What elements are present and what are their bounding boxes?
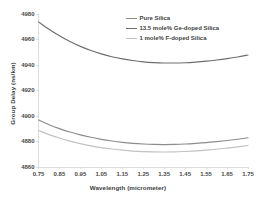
y-tick-label: 4920 [7,87,35,93]
legend-label: 13.5 mole% Ge-doped Silica [140,24,220,32]
y-tick-label: 4980 [7,11,35,17]
y-tick-label: 4880 [7,138,35,144]
y-tick-label: 4960 [7,36,35,42]
legend-label: Pure Silica [140,14,171,22]
legend-item[interactable]: Pure Silica [126,14,219,22]
y-axis-title: Group Delay (ns/km) [9,34,16,154]
x-axis-title: Wavelength (micrometer) [0,184,256,191]
legend-line-swatch [126,28,137,29]
y-tick-label: 4940 [7,62,35,68]
x-tick-label: 1.75 [236,171,256,177]
chart-container: Pure Silica13.5 mole% Ge-doped Silica1 m… [0,0,256,199]
legend-item[interactable]: 1 mole% F-doped Silica [126,34,219,42]
y-tick-label: 4860 [7,164,35,170]
legend-line-swatch [126,18,137,19]
legend-line-swatch [126,38,137,39]
legend-item[interactable]: 13.5 mole% Ge-doped Silica [126,24,219,32]
y-tick-label: 4900 [7,113,35,119]
legend-label: 1 mole% F-doped Silica [140,34,207,42]
chart-legend: Pure Silica13.5 mole% Ge-doped Silica1 m… [126,14,219,42]
